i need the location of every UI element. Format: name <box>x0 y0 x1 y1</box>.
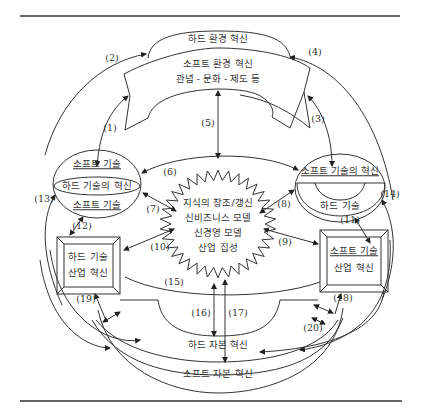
label-13: (13) <box>34 193 54 204</box>
left-ellipse-bottom: 소프트 기술 <box>73 200 121 210</box>
right-ellipse-top: 소프트 기술의 혁신 <box>301 166 379 176</box>
hard-env-label: 하드 환경 혁신 <box>188 34 248 44</box>
left-ellipse-middle: 하드 기술의 혁신 <box>62 181 131 191</box>
label-20: (20) <box>303 322 323 333</box>
label-10: (10) <box>150 241 170 252</box>
soft-capital-label: 소프트 자본 혁신 <box>183 369 252 379</box>
left-ellipse-top: 소프트 기술 <box>73 159 121 169</box>
label-9: (9) <box>278 236 291 247</box>
right-box <box>320 230 388 292</box>
arrow-13 <box>45 195 62 305</box>
left-box <box>57 237 120 294</box>
label-11: (11) <box>340 214 360 225</box>
arrow-19 <box>95 294 105 318</box>
label-4: (4) <box>308 46 321 57</box>
bottom-u-inner <box>120 300 318 336</box>
arrow-4 <box>290 57 393 200</box>
label-12: (12) <box>72 220 92 231</box>
right-ellipse <box>295 154 385 222</box>
star-line2: 신비즈니스 모델 <box>185 213 251 223</box>
left-box-line1: 하드 기술 <box>68 252 107 262</box>
right-box-line1: 소프트 기술 <box>330 246 378 256</box>
label-8: (8) <box>277 198 290 209</box>
label-15: (15) <box>164 276 184 287</box>
left-box-line2: 산업 혁신 <box>68 268 107 278</box>
star-line4: 산업 집성 <box>198 243 237 253</box>
label-5: (5) <box>201 117 214 128</box>
soft-env-sub-label: 관념 - 문화 - 제도 등 <box>176 74 261 84</box>
label-19: (19) <box>76 293 96 304</box>
soft-env-label: 소프트 환경 혁신 <box>183 59 252 69</box>
star-line3: 신경영 모델 <box>194 228 242 238</box>
label-18: (18) <box>333 292 353 303</box>
arrow-15 <box>125 277 320 295</box>
label-6: (6) <box>163 166 176 177</box>
label-16: (16) <box>191 307 211 318</box>
label-7: (7) <box>146 203 159 214</box>
label-3: (3) <box>311 113 324 124</box>
label-14: (14) <box>380 188 400 199</box>
hard-capital-label: 하드 자본 혁신 <box>188 340 248 350</box>
label-17: (17) <box>228 307 248 318</box>
center-starburst <box>160 170 276 278</box>
right-box-line2: 산업 혁신 <box>334 263 373 273</box>
label-2: (2) <box>105 52 118 63</box>
right-ellipse-bottom: 하드 기술 <box>320 201 359 211</box>
label-1: (1) <box>103 122 116 133</box>
arrow-2 <box>45 54 146 155</box>
star-line1: 지식의 창조/갱신 <box>183 198 252 208</box>
